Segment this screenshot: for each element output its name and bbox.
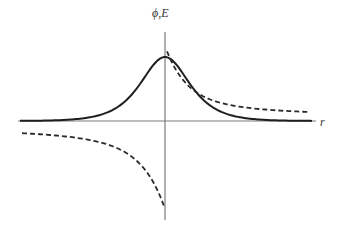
- x-axis-label: r: [320, 115, 325, 130]
- y-axis-label: ϕ,E: [152, 6, 169, 21]
- field-curve-negative: [22, 133, 164, 206]
- chart-plot-area: [0, 0, 342, 228]
- phi-curve: [20, 57, 312, 121]
